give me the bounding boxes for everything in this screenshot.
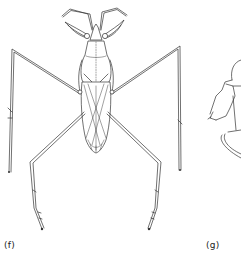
illustration xyxy=(0,0,241,255)
panel-label-f: (f) xyxy=(4,240,15,250)
insect-f-drawing xyxy=(8,8,182,230)
panel-label-g: (g) xyxy=(206,240,220,250)
insect-g-drawing xyxy=(208,60,241,158)
